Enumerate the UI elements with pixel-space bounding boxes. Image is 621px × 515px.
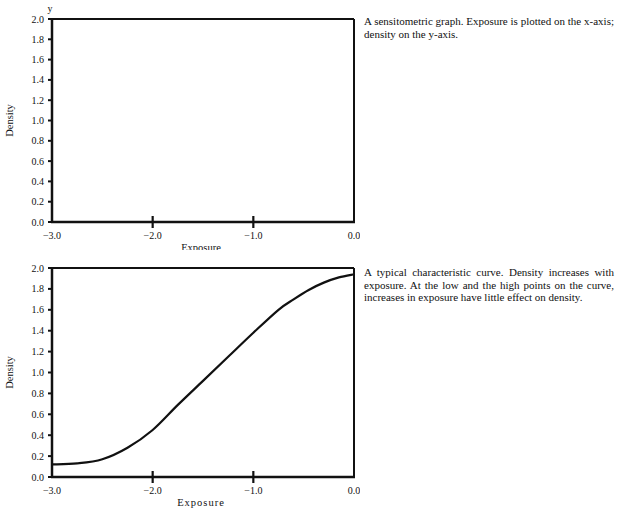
x-axis-label: Exposure [177,497,225,508]
x-tick-label: −2.0 [144,485,162,496]
y-tick-label: 0.8 [32,388,45,399]
y-tick-label: 1.0 [32,367,45,378]
y-tick-label: 1.0 [32,115,45,126]
y-tick-label: 1.4 [32,325,45,336]
y-tick-label: 1.4 [32,74,45,85]
y-tick-label: 0.4 [32,176,45,187]
x-tick-label: 0.0 [348,230,360,241]
y-tick-label: 0.6 [32,409,45,420]
y-tick-label: 0.6 [32,156,45,167]
x-tick-label: −1.0 [244,230,262,241]
y-axis-label: Density [4,103,15,136]
sensitometric-graph: 0.00.20.40.60.81.01.21.41.61.82.0−3.0−2.… [0,0,360,250]
x-tick-label: −1.0 [244,485,262,496]
characteristic-curve-line [52,274,354,464]
y-tick-label: 1.2 [32,95,45,106]
y-tick-label: 1.6 [32,304,45,315]
y-tick-label: 0.0 [32,217,45,228]
x-tick-label: −2.0 [144,230,162,241]
y-tick-label: 0.2 [32,451,45,462]
y-tick-label: 0.8 [32,135,45,146]
y-tick-label: 1.8 [32,34,45,45]
x-tick-label: −3.0 [43,230,61,241]
x-tick-label: −3.0 [43,485,61,496]
characteristic-curve-graph: 0.00.20.40.60.81.01.21.41.61.82.0−3.0−2.… [0,250,360,515]
y-tick-label: 1.8 [32,283,45,294]
y-tick-label: 0.0 [32,472,45,483]
x-tick-label: 0.0 [348,485,360,496]
y-tick-label: 0.4 [32,430,45,441]
sensitometric-graph-caption: A sensitometric graph. Exposure is plott… [364,15,614,40]
y-tick-label: 2.0 [32,14,45,25]
x-axis-label: Exposure [181,242,221,250]
y-axis-label: Density [4,355,15,388]
y-tick-label: 2.0 [32,263,45,274]
y-axis-letter: y [48,3,53,14]
characteristic-curve-caption: A typical characteristic curve. Density … [364,266,614,304]
y-tick-label: 0.2 [32,196,45,207]
y-tick-label: 1.6 [32,54,45,65]
y-tick-label: 1.2 [32,346,45,357]
